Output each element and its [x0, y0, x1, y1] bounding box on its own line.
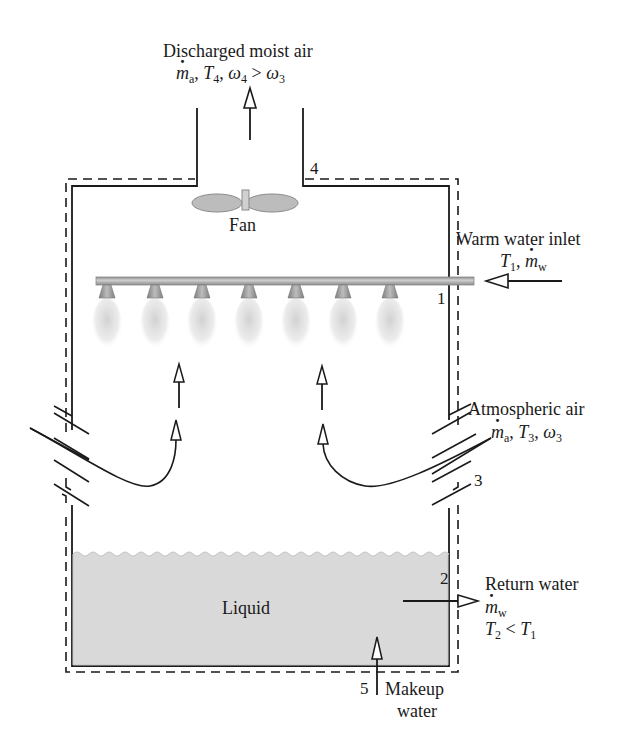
temperature-symbol: T — [203, 63, 213, 83]
warm-water-inlet-title: Warm water inlet — [456, 228, 581, 250]
atmospheric-air-properties: ma, T3, ω3 — [491, 421, 562, 449]
makeup-water-line1: Makeup — [385, 678, 444, 700]
temperature-symbol: T — [518, 422, 528, 442]
left-air-flow — [30, 364, 184, 486]
discharged-air-properties: ma, T4, ω4 > ω3 — [176, 62, 285, 90]
state-1-label: 1 — [437, 288, 446, 310]
subscript: 3 — [556, 431, 562, 445]
makeup-water-line2: water — [397, 700, 437, 722]
temperature-symbol: T — [485, 619, 495, 639]
state-4-label: 4 — [310, 158, 319, 180]
mdot-symbol: m — [491, 421, 504, 443]
nozzle-7 — [375, 285, 405, 352]
return-water-title: Return water — [485, 573, 578, 595]
nozzle-6 — [328, 285, 358, 352]
nozzle-5 — [281, 285, 311, 352]
subscript: 3 — [279, 72, 285, 86]
mdot-symbol: m — [485, 596, 498, 618]
separator: , — [516, 251, 525, 271]
humidity-symbol: ω — [266, 63, 279, 83]
state-2-label: 2 — [440, 568, 449, 590]
separator: , — [534, 422, 543, 442]
nozzle-1 — [92, 285, 122, 352]
relation: < — [501, 619, 520, 639]
atmospheric-air-title: Atmospheric air — [468, 398, 584, 420]
warm-water-inlet-properties: T1, mw — [500, 250, 547, 278]
return-water-temperature-relation: T2 < T1 — [485, 618, 536, 646]
temperature-symbol: T — [520, 619, 530, 639]
separator: , — [219, 63, 228, 83]
nozzle-2 — [140, 285, 170, 352]
relation: > — [247, 63, 266, 83]
subscript: w — [538, 260, 547, 274]
state-3-label: 3 — [474, 470, 483, 492]
spray-nozzles — [92, 285, 405, 352]
right-air-flow — [317, 366, 491, 486]
humidity-symbol: ω — [228, 63, 241, 83]
subscript: 1 — [530, 628, 536, 642]
mdot-symbol: m — [525, 250, 538, 272]
liquid-label: Liquid — [222, 597, 270, 619]
nozzle-3 — [187, 285, 217, 352]
state-5-label: 5 — [360, 678, 369, 700]
separator: , — [194, 63, 203, 83]
mdot-symbol: m — [176, 62, 189, 84]
fan-label: Fan — [229, 214, 256, 236]
separator: , — [509, 422, 518, 442]
nozzle-4 — [234, 285, 264, 352]
fan-icon — [192, 190, 298, 212]
discharge-arrow — [244, 88, 256, 140]
distribution-pipe — [96, 277, 474, 285]
humidity-symbol: ω — [543, 422, 556, 442]
temperature-symbol: T — [500, 251, 510, 271]
